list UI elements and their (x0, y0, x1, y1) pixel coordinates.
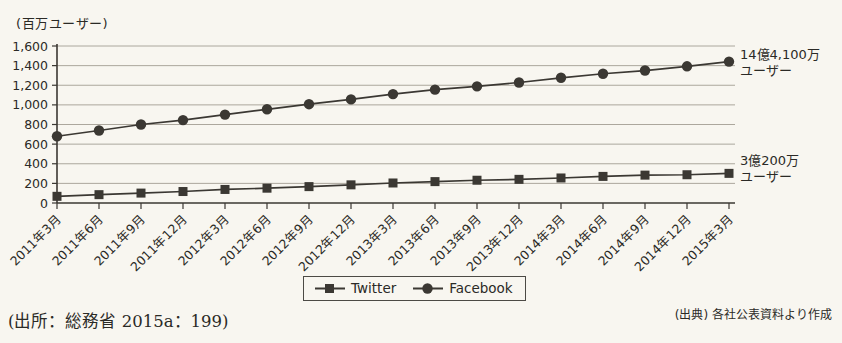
twitter-data-point (641, 171, 650, 180)
twitter-data-point (263, 184, 272, 193)
twitter-data-point (599, 172, 608, 181)
y-tick-label: 400 (24, 156, 48, 171)
twitter-data-point (179, 187, 188, 196)
facebook-end-unit: ユーザー (740, 63, 820, 79)
twitter-data-point (431, 177, 440, 186)
twitter-data-point (725, 169, 734, 178)
facebook-data-point (724, 56, 734, 66)
twitter-data-point (53, 192, 62, 201)
chart-canvas: 02004006008001,0001,2001,4001,6002011年3月… (0, 0, 842, 275)
facebook-data-point (346, 94, 356, 104)
legend-label-twitter: Twitter (351, 280, 396, 296)
facebook-data-point (52, 131, 62, 141)
facebook-data-point (262, 104, 272, 114)
y-tick-label: 1,200 (12, 78, 48, 93)
y-tick-label: 600 (24, 137, 48, 152)
y-tick-label: 1,400 (12, 58, 48, 73)
twitter-data-point (347, 180, 356, 189)
twitter-data-point (305, 182, 314, 191)
facebook-end-annotation: 14億4,100万 ユーザー (740, 47, 820, 79)
facebook-data-point (682, 61, 692, 71)
twitter-data-point (515, 175, 524, 184)
legend-item-facebook: Facebook (412, 280, 512, 296)
facebook-data-point (94, 125, 104, 135)
legend: Twitter Facebook (303, 276, 526, 301)
facebook-data-point (430, 84, 440, 94)
twitter-data-point (473, 176, 482, 185)
facebook-data-point (472, 81, 482, 91)
twitter-end-annotation: 3億200万 ユーザー (740, 153, 799, 185)
y-tick-label: 800 (24, 117, 48, 132)
facebook-data-point (556, 73, 566, 83)
facebook-data-point (388, 89, 398, 99)
twitter-data-point (137, 189, 146, 198)
facebook-data-point (640, 65, 650, 75)
twitter-data-point (557, 173, 566, 182)
legend-label-facebook: Facebook (449, 280, 512, 296)
twitter-end-unit: ユーザー (740, 169, 799, 185)
source-citation-right: (出典) 各社公表資料より作成 (675, 305, 832, 322)
twitter-data-point (683, 170, 692, 179)
y-tick-label: 0 (40, 196, 48, 211)
twitter-end-value: 3億200万 (740, 153, 799, 169)
facebook-data-point (304, 99, 314, 109)
y-tick-label: 1,000 (12, 97, 48, 112)
facebook-data-point (598, 69, 608, 79)
figure: (百万ユーザー) 02004006008001,0001,2001,4001,6… (0, 0, 842, 343)
twitter-square-marker-icon (314, 282, 346, 295)
facebook-end-value: 14億4,100万 (740, 47, 820, 63)
y-tick-label: 1,600 (12, 39, 48, 54)
twitter-data-point (95, 190, 104, 199)
facebook-data-point (220, 109, 230, 119)
twitter-data-point (221, 185, 230, 194)
facebook-circle-marker-icon (412, 282, 444, 295)
facebook-data-point (514, 77, 524, 87)
source-citation-left: (出所：総務省 2015a：199) (8, 308, 228, 332)
twitter-data-point (389, 178, 398, 187)
facebook-data-point (178, 115, 188, 125)
legend-item-twitter: Twitter (314, 280, 396, 296)
facebook-data-point (136, 119, 146, 129)
y-tick-label: 200 (24, 176, 48, 191)
